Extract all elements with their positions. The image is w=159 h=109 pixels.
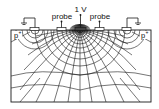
ground-contact-left bbox=[30, 28, 39, 31]
source-terminal bbox=[80, 14, 82, 16]
ground-symbol-right bbox=[135, 23, 141, 25]
svg-text:+: + bbox=[146, 29, 149, 35]
high-field-region bbox=[69, 24, 91, 38]
voltage-label: 1 V bbox=[74, 5, 87, 14]
ground-contact-right bbox=[122, 28, 131, 31]
probe-left-label: probe bbox=[52, 12, 73, 21]
svg-text:+: + bbox=[19, 29, 22, 35]
doping-label-right: p + bbox=[140, 29, 149, 40]
spreading-resistance-diagram: 1 V probe probe p + p + bbox=[0, 0, 159, 109]
probe-contact-left bbox=[57, 28, 66, 31]
probe-contact-right bbox=[95, 28, 104, 31]
source-contact-center bbox=[75, 28, 86, 31]
probe-right-label: probe bbox=[90, 12, 111, 21]
doping-label-left: p + bbox=[13, 29, 22, 40]
ground-symbol-left bbox=[21, 23, 27, 25]
